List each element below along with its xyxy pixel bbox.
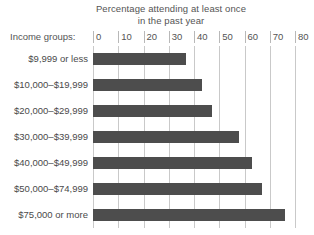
bar-chart: Percentage attending at least once in th… — [0, 0, 314, 235]
x-tick-label: 40 — [194, 30, 208, 43]
chart-title: Percentage attending at least once in th… — [0, 3, 314, 27]
chart-title-line-1: Percentage attending at least once — [28, 3, 314, 15]
chart-title-line-2: in the past year — [28, 15, 314, 27]
x-tick-label: 80 — [295, 30, 309, 43]
x-tick-label: 60 — [245, 30, 259, 43]
x-tick-label: 70 — [270, 30, 284, 43]
bar — [93, 105, 212, 117]
category-label: $10,000–$19,999 — [0, 72, 88, 98]
x-tick-label: 10 — [118, 30, 132, 43]
bar — [93, 79, 202, 91]
bar-row: $10,000–$19,999 — [0, 72, 314, 98]
bar-row: $20,000–$29,999 — [0, 98, 314, 124]
bar-rows: $9,999 or less$10,000–$19,999$20,000–$29… — [0, 46, 314, 228]
bar — [93, 131, 239, 143]
category-label: $50,000–$74,999 — [0, 176, 88, 202]
bar-row: $9,999 or less — [0, 46, 314, 72]
bar — [93, 209, 285, 221]
x-tick-label: 50 — [219, 30, 233, 43]
bar — [93, 53, 186, 65]
bar-row: $50,000–$74,999 — [0, 176, 314, 202]
x-tick-label: 30 — [169, 30, 183, 43]
bar — [93, 183, 262, 195]
bar-row: $40,000–$49,999 — [0, 150, 314, 176]
axis-caption: Income groups: — [10, 30, 75, 43]
category-label: $9,999 or less — [0, 46, 88, 72]
x-tick-label: 20 — [144, 30, 158, 43]
x-tick-label: 0 — [93, 30, 101, 43]
category-label: $40,000–$49,999 — [0, 150, 88, 176]
bar-row: $30,000–$39,999 — [0, 124, 314, 150]
bar — [93, 157, 252, 169]
bar-row: $75,000 or more — [0, 202, 314, 228]
category-label: $20,000–$29,999 — [0, 98, 88, 124]
category-label: $75,000 or more — [0, 202, 88, 228]
x-axis-header: Income groups: 01020304050607080 — [0, 30, 314, 44]
category-label: $30,000–$39,999 — [0, 124, 88, 150]
